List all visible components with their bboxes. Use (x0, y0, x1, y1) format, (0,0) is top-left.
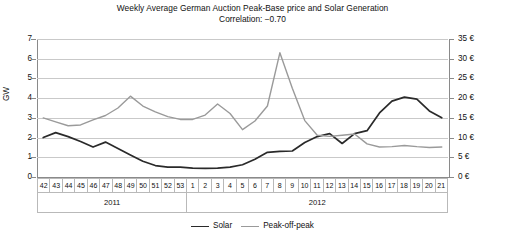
y-axis-left: 01234567 (0, 0, 32, 243)
legend-label: Solar (213, 222, 232, 230)
series-layer (37, 39, 448, 177)
x-axis-week-cell: 3 (212, 178, 224, 192)
y-axis-left-tick-label: 5 (6, 73, 32, 82)
x-axis-week-cell: 14 (349, 178, 361, 192)
x-axis-week-cell: 10 (299, 178, 311, 192)
x-axis-year-cell: 2011 (37, 193, 187, 212)
x-axis-week-cell: 16 (373, 178, 385, 192)
y-axis-left-tick-mark (31, 177, 36, 178)
series-line-peak-off-peak (43, 53, 442, 148)
y-axis-right: 0 €5 €10 €15 €20 €25 €30 €35 € (450, 0, 505, 243)
y-axis-right-tick-mark (449, 157, 454, 158)
y-axis-left-tick-mark (31, 78, 36, 79)
legend-label: Peak-off-peak (263, 222, 314, 230)
y-axis-right-tick-mark (449, 98, 454, 99)
y-axis-left-tick-label: 0 (6, 172, 32, 181)
x-axis-week-cell: 20 (423, 178, 435, 192)
x-axis-week-cell: 21 (436, 178, 448, 192)
y-axis-left-tick-label: 7 (6, 34, 32, 43)
x-axis-week-cell: 51 (150, 178, 162, 192)
x-axis-week-cell: 13 (336, 178, 348, 192)
x-axis-week-cell: 19 (411, 178, 423, 192)
x-axis-week-cell: 53 (175, 178, 187, 192)
chart-subtitle: Correlation: −0.70 (0, 14, 505, 25)
x-axis-week-labels: 4243444546474849505152531234567891011121… (37, 178, 448, 192)
x-axis-week-cell: 46 (88, 178, 100, 192)
y-axis-left-tick-label: 6 (6, 53, 32, 62)
y-axis-right-tick-label: 35 € (458, 34, 503, 43)
y-axis-left-tick-mark (31, 157, 36, 158)
x-axis-year-cell: 2012 (187, 193, 448, 212)
series-line-solar (43, 97, 442, 168)
y-axis-right-tick-mark (449, 39, 454, 40)
legend-line-swatch (191, 226, 209, 227)
y-axis-left-tick-label: 3 (6, 112, 32, 121)
legend-line-swatch (241, 226, 259, 227)
y-axis-right-tick-label: 10 € (458, 132, 503, 141)
y-axis-right-tick-label: 30 € (458, 53, 503, 62)
y-axis-left-tick-label: 2 (6, 132, 32, 141)
x-axis-week-cell: 11 (311, 178, 323, 192)
x-axis-week-cell: 8 (274, 178, 286, 192)
y-axis-right-tick-mark (449, 78, 454, 79)
y-axis-right-tick-mark (449, 118, 454, 119)
y-axis-left-tick-label: 1 (6, 152, 32, 161)
legend-item[interactable]: Peak-off-peak (241, 222, 314, 230)
x-axis-year-groups: 20112012 (37, 193, 448, 212)
x-axis-week-cell: 42 (37, 178, 50, 192)
x-axis-week-cell: 17 (386, 178, 398, 192)
y-axis-right-tick-label: 20 € (458, 93, 503, 102)
chart-title: Weekly Average German Auction Peak-Base … (0, 3, 505, 14)
chart-container: Weekly Average German Auction Peak-Base … (0, 0, 505, 243)
y-axis-left-tick-mark (31, 138, 36, 139)
y-axis-right-tick-label: 5 € (458, 152, 503, 161)
x-axis-week-cell: 50 (137, 178, 149, 192)
x-axis-week-cell: 9 (286, 178, 298, 192)
y-axis-left-tick-mark (31, 98, 36, 99)
x-axis-week-cell: 18 (398, 178, 410, 192)
x-axis-week-cell: 43 (50, 178, 62, 192)
x-axis-week-cell: 2 (199, 178, 211, 192)
y-axis-right-tick-label: 15 € (458, 112, 503, 121)
x-axis-week-cell: 1 (187, 178, 199, 192)
y-axis-right-tick-mark (449, 59, 454, 60)
x-axis-week-cell: 12 (324, 178, 336, 192)
y-axis-left-label: GW (2, 87, 11, 101)
y-axis-left-tick-mark (31, 39, 36, 40)
x-axis-week-cell: 4 (224, 178, 236, 192)
y-axis-left-tick-mark (31, 59, 36, 60)
y-axis-right-tick-mark (449, 177, 454, 178)
x-axis-week-cell: 44 (63, 178, 75, 192)
x-axis-week-cell: 47 (100, 178, 112, 192)
x-axis-week-cell: 45 (75, 178, 87, 192)
x-axis-week-cell: 15 (361, 178, 373, 192)
year-band-bottom-rule (37, 212, 448, 213)
x-axis-week-cell: 49 (125, 178, 137, 192)
y-axis-right-tick-label: 25 € (458, 73, 503, 82)
chart-title-block: Weekly Average German Auction Peak-Base … (0, 3, 505, 25)
legend-item[interactable]: Solar (191, 222, 232, 230)
x-axis-week-cell: 7 (262, 178, 274, 192)
chart-legend: SolarPeak-off-peak (0, 222, 505, 230)
y-axis-left-tick-mark (31, 118, 36, 119)
y-axis-right-tick-mark (449, 138, 454, 139)
x-axis-week-cell: 48 (113, 178, 125, 192)
x-axis-week-cell: 6 (249, 178, 261, 192)
y-axis-right-tick-label: 0 € (458, 172, 503, 181)
x-axis-week-cell: 52 (162, 178, 174, 192)
x-axis-week-cell: 5 (237, 178, 249, 192)
